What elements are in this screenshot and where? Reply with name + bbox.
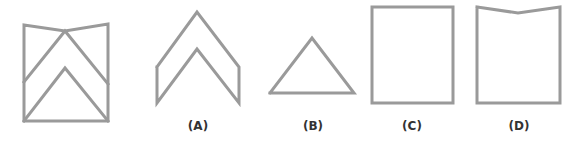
- question-chevron-outer: [24, 31, 108, 84]
- option-d-notched-rectangle[interactable]: [477, 7, 560, 103]
- question-figure: [24, 24, 108, 121]
- option-b-label: (B): [303, 119, 323, 133]
- option-c-label: (C): [402, 119, 422, 133]
- option-b-triangle[interactable]: [270, 38, 354, 93]
- option-c-rectangle[interactable]: [372, 7, 453, 103]
- option-a-label: (A): [188, 119, 208, 133]
- question-chevron-inner: [24, 68, 108, 121]
- option-a-chevron[interactable]: [157, 12, 239, 103]
- option-d-label: (D): [509, 119, 530, 133]
- figure-canvas: [0, 0, 582, 143]
